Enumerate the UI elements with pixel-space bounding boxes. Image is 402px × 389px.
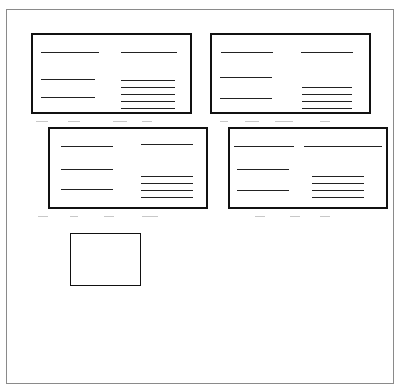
divider	[234, 146, 294, 147]
crc-card-traffic-control-signal	[31, 33, 192, 114]
responsibility-line	[41, 79, 95, 80]
collaborator-line	[302, 94, 352, 95]
divider	[141, 144, 193, 145]
responsibility-line	[41, 97, 95, 98]
collaborator-line	[312, 190, 364, 191]
divider	[221, 52, 273, 53]
divider	[61, 146, 113, 147]
divider	[304, 146, 382, 147]
crc-card-controller	[48, 127, 208, 209]
scan-mark	[36, 121, 48, 122]
collaborator-line	[312, 197, 364, 198]
divider	[301, 52, 353, 53]
scan-mark	[68, 121, 80, 122]
collaborator-line	[141, 176, 193, 177]
collaborator-line	[302, 108, 352, 109]
collaborator-line	[121, 108, 175, 109]
collaborator-line	[121, 87, 175, 88]
scan-mark	[320, 216, 330, 217]
scan-mark	[220, 121, 228, 122]
scan-mark	[104, 216, 114, 217]
responsibility-line	[220, 98, 272, 99]
scan-mark	[255, 216, 265, 217]
scan-mark	[142, 121, 152, 122]
collaborator-line	[121, 101, 175, 102]
scan-mark	[142, 216, 158, 217]
scan-mark	[245, 121, 259, 122]
responsibility-line	[237, 190, 289, 191]
scan-mark	[70, 216, 78, 217]
responsibility-line	[237, 169, 289, 170]
collaborator-line	[121, 80, 175, 81]
scan-mark	[38, 216, 48, 217]
collaborator-line	[141, 183, 193, 184]
responsibility-line	[220, 77, 272, 78]
divider	[41, 52, 99, 53]
scan-mark	[275, 121, 293, 122]
crc-card-crosswalk-signal	[228, 127, 388, 209]
scan-mark	[290, 216, 300, 217]
scan-mark	[113, 121, 127, 122]
collaborator-line	[312, 176, 364, 177]
uml-class-traffic-control-signal	[70, 233, 141, 286]
scan-mark	[320, 121, 330, 122]
responsibility-line	[61, 169, 113, 170]
crc-card-intersection	[210, 33, 371, 114]
collaborator-line	[141, 190, 193, 191]
collaborator-line	[312, 183, 364, 184]
collaborator-line	[121, 94, 175, 95]
responsibility-line	[61, 189, 113, 190]
divider	[121, 52, 177, 53]
collaborator-line	[302, 87, 352, 88]
collaborator-line	[141, 197, 193, 198]
collaborator-line	[302, 101, 352, 102]
